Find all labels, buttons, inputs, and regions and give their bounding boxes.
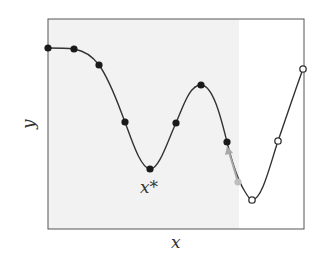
x-axis-label: x	[171, 232, 181, 252]
y-axis-label: y	[18, 119, 38, 130]
annotation-xstar: x*	[140, 177, 159, 197]
plot-figure: x* x y	[0, 0, 316, 259]
gray-point	[234, 178, 241, 185]
open-points	[249, 66, 306, 203]
